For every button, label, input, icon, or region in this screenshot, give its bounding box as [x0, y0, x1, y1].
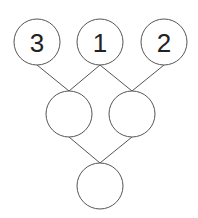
- node-top-left: 3: [14, 19, 60, 65]
- node-mid-left: [46, 91, 92, 137]
- edge-mid-left-to-bottom: [69, 137, 100, 163]
- edge-top-left-to-mid-left: [37, 65, 69, 91]
- edge-top-right-to-mid-right: [132, 65, 164, 91]
- node-top-right: 2: [141, 19, 187, 65]
- node-label-top-left: 3: [30, 28, 44, 58]
- edge-top-center-to-mid-left: [69, 65, 100, 91]
- tree-diagram: 3 1 2: [0, 0, 198, 218]
- node-label-top-right: 2: [157, 28, 171, 58]
- node-label-top-center: 1: [93, 28, 107, 58]
- edge-mid-right-to-bottom: [100, 137, 132, 163]
- node-top-center: 1: [77, 19, 123, 65]
- nodes: 3 1 2: [14, 19, 187, 209]
- edge-top-center-to-mid-right: [100, 65, 132, 91]
- node-bottom: [77, 163, 123, 209]
- node-mid-right: [109, 91, 155, 137]
